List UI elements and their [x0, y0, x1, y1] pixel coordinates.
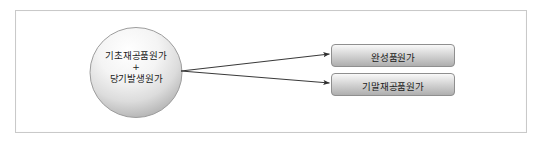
source-node-plus-sign: +	[88, 62, 184, 73]
target-label-ending-wip: 기말재공품원가	[331, 79, 455, 93]
connector-to-finished-goods	[181, 54, 330, 71]
diagram-artwork	[0, 0, 544, 143]
diagram-canvas: 기초재공품원가 + 당기발생원가 완성품원가 기말재공품원가	[0, 0, 544, 143]
source-node-label: 기초재공품원가 + 당기발생원가	[88, 50, 184, 85]
source-node-line-3: 당기발생원가	[88, 73, 184, 85]
target-label-finished-goods: 완성품원가	[331, 50, 455, 64]
connector-to-ending-wip	[181, 71, 330, 83]
source-node-line-1: 기초재공품원가	[88, 50, 184, 62]
